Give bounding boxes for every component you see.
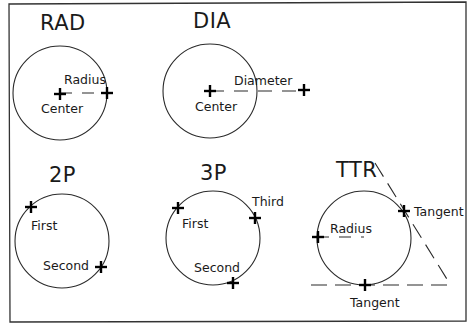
label-radius: Radius [330, 221, 372, 236]
label-diameter: Diameter [234, 73, 293, 88]
third-point-marker-icon [249, 212, 261, 224]
second-point-marker-icon [95, 261, 107, 273]
label-tangent-1: Tangent [413, 204, 464, 219]
diameter-point-marker-icon [298, 84, 310, 96]
label-center: Center [195, 99, 238, 114]
tangent-point-marker-icon [359, 279, 371, 291]
label-second: Second [194, 260, 240, 275]
label-second: Second [43, 258, 89, 273]
label-radius: Radius [64, 72, 106, 87]
circle-methods-diagram: RAD Radius Center DIA Diameter Center 2P [0, 0, 468, 324]
panel-dia: DIA Diameter Center [163, 9, 310, 138]
panel-title-3p: 3P [200, 161, 227, 185]
tangent-line-diagonal [375, 163, 450, 284]
panel-title-2p: 2P [49, 163, 76, 187]
panel-ttr: TTR Radius Tangent Tangent [311, 158, 464, 310]
radius-point-marker-icon [312, 231, 324, 243]
panel-2p: 2P First Second [15, 163, 109, 288]
label-third: Third [251, 194, 284, 209]
center-marker-icon [54, 88, 66, 100]
label-first: First [31, 218, 57, 233]
panel-title-dia: DIA [193, 9, 231, 33]
panel-rad: RAD Radius Center [13, 11, 113, 140]
center-marker-icon [204, 85, 216, 97]
panel-3p: 3P First Third Second [166, 161, 284, 289]
radius-point-marker-icon [101, 87, 113, 99]
label-tangent-2: Tangent [349, 295, 400, 310]
panel-title-rad: RAD [40, 11, 86, 35]
ttr-circle [317, 191, 411, 285]
panel-title-ttr: TTR [335, 158, 377, 182]
label-center: Center [41, 101, 84, 116]
label-first: First [182, 216, 208, 231]
